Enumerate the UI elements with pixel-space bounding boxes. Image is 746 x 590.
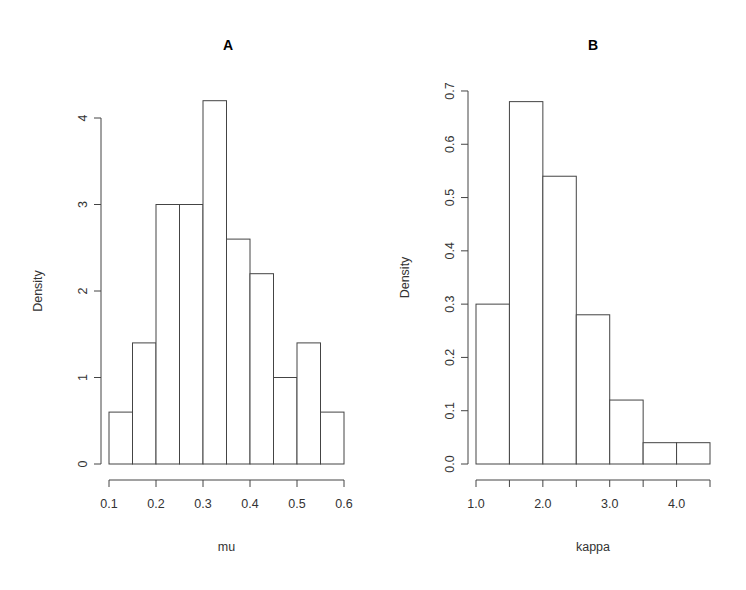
histogram-panel-a: A012340.10.20.30.40.50.6muDensity — [31, 37, 353, 554]
histogram-bar — [321, 412, 345, 464]
y-tick-label: 0.1 — [443, 402, 457, 419]
x-tick-label: 0.5 — [288, 497, 305, 511]
x-tick-label: 3.0 — [601, 497, 618, 511]
histogram-bar — [543, 176, 576, 464]
x-axis-label: mu — [218, 540, 235, 554]
histogram-bar — [576, 315, 609, 464]
histogram-bar — [133, 343, 157, 464]
y-tick-label: 0.2 — [443, 349, 457, 366]
x-tick-label: 0.1 — [100, 497, 117, 511]
y-tick-label: 0.6 — [443, 136, 457, 153]
chart-title: B — [588, 37, 598, 53]
histogram-bar — [677, 443, 710, 464]
x-tick-label: 2.0 — [534, 497, 551, 511]
histogram-bar — [509, 102, 542, 464]
histogram-panel-b: B0.00.10.20.30.40.50.60.71.02.03.04.0kap… — [398, 37, 710, 554]
histogram-bar — [297, 343, 321, 464]
y-tick-label: 4 — [76, 114, 90, 121]
x-tick-label: 4.0 — [668, 497, 685, 511]
histogram-bar — [180, 205, 204, 465]
y-tick-label: 3 — [76, 201, 90, 208]
histogram-bar — [476, 304, 509, 464]
histogram-figure: A012340.10.20.30.40.50.6muDensity B0.00.… — [0, 0, 746, 590]
y-tick-label: 0.7 — [443, 82, 457, 99]
histogram-bar — [643, 443, 676, 464]
y-tick-label: 0.3 — [443, 295, 457, 312]
chart-title: A — [223, 37, 233, 53]
y-tick-label: 0.5 — [443, 189, 457, 206]
x-tick-label: 0.6 — [335, 497, 352, 511]
x-tick-label: 0.4 — [241, 497, 258, 511]
y-tick-label: 0.0 — [443, 455, 457, 472]
y-tick-label: 1 — [76, 374, 90, 381]
histogram-bar — [250, 274, 274, 464]
histogram-bar — [109, 412, 133, 464]
x-tick-label: 1.0 — [467, 497, 484, 511]
y-tick-label: 2 — [76, 287, 90, 294]
y-axis-label: Density — [398, 256, 412, 298]
y-axis-label: Density — [31, 269, 45, 311]
histogram-bar — [274, 378, 298, 465]
y-tick-label: 0 — [76, 460, 90, 467]
histogram-bar — [610, 400, 643, 464]
x-tick-label: 0.3 — [194, 497, 211, 511]
histogram-bar — [203, 101, 227, 464]
x-tick-label: 0.2 — [147, 497, 164, 511]
y-tick-label: 0.4 — [443, 242, 457, 259]
histogram-bar — [156, 205, 180, 465]
histogram-bar — [227, 239, 251, 464]
x-axis-label: kappa — [576, 540, 610, 554]
